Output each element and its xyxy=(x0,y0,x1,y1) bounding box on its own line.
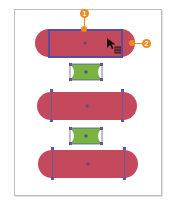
center-point-icon xyxy=(85,135,88,138)
arrow-scale-cursor-icon xyxy=(107,38,121,58)
anchor-line-right xyxy=(124,148,125,180)
anchor-handle[interactable] xyxy=(51,177,54,180)
callout-1-anchor xyxy=(81,26,87,32)
anchor-handle[interactable] xyxy=(50,89,53,92)
anchor-handle[interactable] xyxy=(121,119,124,122)
center-point-icon xyxy=(87,163,90,166)
bowtie-shape-1[interactable] xyxy=(69,63,103,81)
center-point-icon xyxy=(85,71,88,74)
anchor-handle[interactable] xyxy=(123,177,126,180)
anchor-handle[interactable] xyxy=(121,89,124,92)
center-point-icon xyxy=(86,105,89,108)
callout-2: 2 xyxy=(142,39,151,48)
pill-shape-3[interactable] xyxy=(38,150,138,178)
anchor-handle[interactable] xyxy=(51,147,54,150)
anchor-handle[interactable] xyxy=(123,147,126,150)
bowtie-shape-2[interactable] xyxy=(69,127,103,145)
anchor-line-right xyxy=(122,90,123,122)
anchor-line-left xyxy=(52,148,53,180)
anchor-line-left xyxy=(51,90,52,122)
anchor-handle[interactable] xyxy=(50,119,53,122)
callout-2-leader xyxy=(134,43,142,44)
